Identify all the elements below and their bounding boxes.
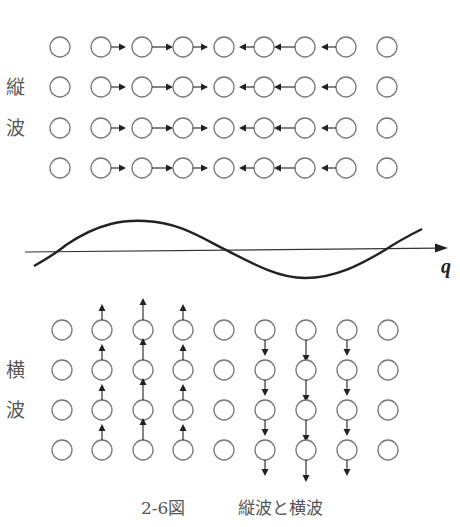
atom-circle	[132, 118, 152, 138]
arrow-down-icon	[344, 469, 351, 476]
atom-circle	[50, 158, 70, 178]
arrow-left-icon	[321, 44, 328, 51]
atom-circle	[296, 320, 316, 340]
arrow-right-icon	[119, 84, 126, 91]
arrow-left-icon	[239, 84, 246, 91]
atom-circle	[377, 37, 397, 57]
atom-circle	[173, 118, 193, 138]
arrow-down-icon	[262, 389, 269, 396]
atom-circle	[214, 320, 234, 340]
arrow-down-icon	[262, 429, 269, 436]
atom-circle	[377, 118, 397, 138]
arrow-down-icon	[303, 475, 310, 482]
atom-circle	[214, 360, 234, 380]
transverse-wave-grid	[52, 298, 398, 482]
arrow-up-icon	[180, 344, 187, 351]
arrow-left-icon	[321, 165, 328, 172]
transverse-label-char-1: 横	[6, 359, 25, 381]
atom-circle	[214, 440, 234, 460]
arrow-down-icon	[344, 389, 351, 396]
atom-circle	[173, 158, 193, 178]
wave-diagram: 縦 波 q 横 波 2-6図 縦波と横波	[0, 0, 460, 527]
arrow-up-icon	[99, 384, 106, 391]
atom-circle	[377, 158, 397, 178]
q-axis-arrowhead-icon	[435, 244, 448, 253]
atom-circle	[336, 77, 356, 97]
arrow-left-icon	[274, 165, 281, 172]
atom-circle	[254, 37, 274, 57]
atom-circle	[214, 77, 234, 97]
arrow-right-icon	[166, 84, 173, 91]
atom-circle	[214, 158, 234, 178]
atom-circle	[91, 37, 111, 57]
atom-circle	[296, 400, 316, 420]
atom-circle	[336, 158, 356, 178]
figure-caption-number: 2-6図	[141, 498, 185, 518]
atom-circle	[254, 118, 274, 138]
arrow-right-icon	[201, 165, 208, 172]
atom-circle	[132, 77, 152, 97]
arrow-left-icon	[274, 84, 281, 91]
atom-circle	[295, 37, 315, 57]
atom-circle	[378, 400, 398, 420]
atom-circle	[296, 440, 316, 460]
atom-circle	[52, 360, 72, 380]
atom-circle	[337, 320, 357, 340]
atom-circle	[295, 118, 315, 138]
q-axis-label: q	[441, 255, 451, 278]
q-axis	[25, 248, 438, 252]
atom-circle	[173, 400, 193, 420]
arrow-down-icon	[344, 349, 351, 356]
atom-circle	[133, 320, 153, 340]
arrow-up-icon	[99, 304, 106, 311]
atom-circle	[337, 440, 357, 460]
arrow-up-icon	[140, 298, 147, 305]
atom-circle	[295, 158, 315, 178]
arrow-right-icon	[119, 125, 126, 132]
arrow-up-icon	[180, 304, 187, 311]
atom-circle	[254, 77, 274, 97]
arrow-right-icon	[201, 84, 208, 91]
arrow-left-icon	[321, 125, 328, 132]
atom-circle	[255, 360, 275, 380]
atom-circle	[132, 158, 152, 178]
atom-circle	[52, 400, 72, 420]
atom-circle	[214, 400, 234, 420]
arrow-right-icon	[201, 44, 208, 51]
atom-circle	[52, 440, 72, 460]
atom-circle	[173, 440, 193, 460]
atom-circle	[254, 158, 274, 178]
atom-circle	[336, 118, 356, 138]
atom-circle	[378, 360, 398, 380]
longitudinal-wave-grid	[50, 37, 397, 178]
atom-circle	[92, 360, 112, 380]
atom-circle	[50, 118, 70, 138]
atom-circle	[91, 118, 111, 138]
atom-circle	[173, 77, 193, 97]
arrow-left-icon	[239, 125, 246, 132]
arrow-up-icon	[99, 424, 106, 431]
atom-circle	[173, 37, 193, 57]
atom-circle	[91, 77, 111, 97]
arrow-left-icon	[321, 84, 328, 91]
atom-circle	[337, 400, 357, 420]
arrow-left-icon	[274, 125, 281, 132]
atom-circle	[91, 158, 111, 178]
atom-circle	[214, 37, 234, 57]
arrow-up-icon	[180, 424, 187, 431]
atom-circle	[50, 77, 70, 97]
longitudinal-label-char-1: 縦	[6, 76, 25, 98]
atom-circle	[214, 118, 234, 138]
atom-circle	[132, 37, 152, 57]
arrow-up-icon	[180, 384, 187, 391]
atom-circle	[133, 400, 153, 420]
atom-circle	[378, 320, 398, 340]
atom-circle	[50, 37, 70, 57]
atom-circle	[52, 320, 72, 340]
atom-circle	[92, 440, 112, 460]
atom-circle	[173, 320, 193, 340]
arrow-right-icon	[166, 165, 173, 172]
atom-circle	[255, 440, 275, 460]
atom-circle	[255, 320, 275, 340]
arrow-right-icon	[201, 125, 208, 132]
